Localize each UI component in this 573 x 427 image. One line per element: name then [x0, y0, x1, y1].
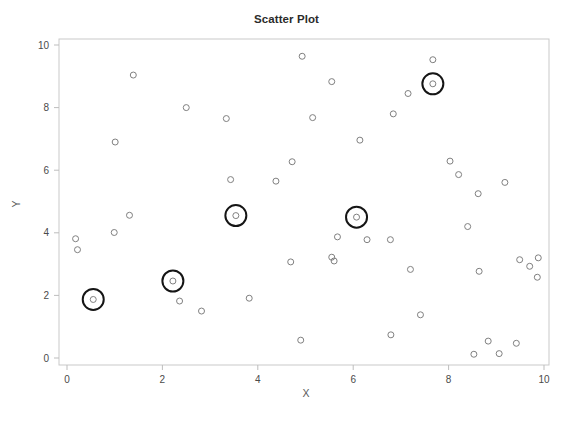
- data-point: [354, 214, 360, 220]
- data-point: [465, 224, 471, 230]
- data-point: [223, 116, 229, 122]
- data-point: [417, 312, 423, 318]
- highlighted-point-ring: [162, 271, 183, 292]
- data-point: [527, 263, 533, 269]
- x-axis-label: X: [302, 387, 309, 399]
- data-points: [73, 53, 542, 357]
- data-point: [233, 213, 239, 219]
- plot-frame: [59, 39, 549, 365]
- data-point: [447, 158, 453, 164]
- data-point: [299, 53, 305, 59]
- y-tick-label: 10: [38, 40, 50, 51]
- y-tick-label: 8: [43, 102, 49, 113]
- data-point: [535, 255, 541, 261]
- scatter-plot-figure: Scatter Plot 02468100246810 X Y: [0, 0, 573, 427]
- highlight-rings: [83, 73, 444, 310]
- data-point: [90, 296, 96, 302]
- highlighted-point-ring: [83, 289, 104, 310]
- data-point: [502, 179, 508, 185]
- data-point: [177, 298, 183, 304]
- data-point: [388, 332, 394, 338]
- axis-ticks: [54, 45, 544, 370]
- data-point: [111, 229, 117, 235]
- y-tick-label: 2: [43, 290, 49, 301]
- data-point: [329, 79, 335, 85]
- x-tick-label: 8: [446, 374, 452, 385]
- x-tick-label: 0: [64, 374, 70, 385]
- axis-tick-labels: 02468100246810: [38, 40, 550, 386]
- data-point: [170, 278, 176, 284]
- data-point: [517, 257, 523, 263]
- x-tick-label: 10: [538, 374, 550, 385]
- data-point: [475, 191, 481, 197]
- data-point: [405, 91, 411, 97]
- data-point: [310, 115, 316, 121]
- data-point: [407, 266, 413, 272]
- data-point: [246, 295, 252, 301]
- data-point: [73, 236, 79, 242]
- data-point: [273, 178, 279, 184]
- highlighted-point-ring: [225, 205, 246, 226]
- data-point: [298, 337, 304, 343]
- highlighted-point-ring: [346, 207, 367, 228]
- data-point: [476, 268, 482, 274]
- data-point: [357, 137, 363, 143]
- data-point: [456, 172, 462, 178]
- y-tick-label: 0: [43, 353, 49, 364]
- data-point: [485, 338, 491, 344]
- data-point: [289, 159, 295, 165]
- data-point: [228, 177, 234, 183]
- x-tick-label: 4: [255, 374, 261, 385]
- data-point: [471, 351, 477, 357]
- data-point: [74, 247, 80, 253]
- data-point: [130, 72, 136, 78]
- data-point: [334, 234, 340, 240]
- data-point: [387, 237, 393, 243]
- data-point: [288, 259, 294, 265]
- data-point: [430, 57, 436, 63]
- y-axis-label: Y: [10, 200, 22, 207]
- data-point: [199, 308, 205, 314]
- data-point: [390, 111, 396, 117]
- data-point: [430, 81, 436, 87]
- data-point: [183, 105, 189, 111]
- data-point: [534, 274, 540, 280]
- data-point: [513, 340, 519, 346]
- x-tick-label: 2: [160, 374, 166, 385]
- x-tick-label: 6: [350, 374, 356, 385]
- data-point: [126, 212, 132, 218]
- plot-canvas: 02468100246810 X Y: [0, 0, 573, 427]
- data-point: [112, 139, 118, 145]
- data-point: [364, 237, 370, 243]
- y-tick-label: 4: [43, 227, 49, 238]
- y-tick-label: 6: [43, 165, 49, 176]
- data-point: [496, 351, 502, 357]
- highlighted-point-ring: [422, 73, 443, 94]
